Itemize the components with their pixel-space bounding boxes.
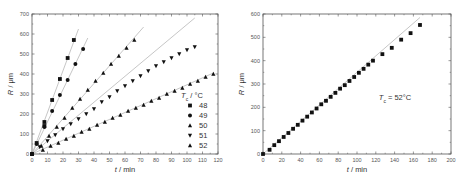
x-axis-title: t / min [347, 165, 367, 174]
fit-line-52 [32, 73, 213, 154]
legend: Tc / °C4849505152 [181, 91, 207, 150]
marker-triangle-down [169, 56, 173, 60]
marker-square [282, 135, 286, 139]
x-tick-label: 60 [316, 157, 322, 163]
marker-triangle-down [131, 79, 135, 83]
x-tick-label: 50 [106, 157, 112, 163]
y-tick-label: 600 [251, 11, 260, 17]
right-plot: 0204060801001201401601802000100200300400… [237, 11, 456, 174]
x-tick-label: 70 [137, 157, 143, 163]
marker-triangle-up [93, 79, 97, 83]
marker-square [310, 111, 314, 115]
legend-item-49: 49 [199, 111, 207, 120]
annotation-tc: Tc = 52°C [379, 93, 412, 104]
marker-triangle-down [177, 52, 181, 56]
y-tick-label: 100 [251, 128, 260, 134]
marker-square [43, 120, 47, 124]
marker-square [399, 38, 403, 42]
marker-square [188, 104, 192, 108]
marker-square [261, 152, 265, 156]
legend-item-48: 48 [199, 101, 207, 110]
marker-square [380, 52, 384, 56]
y-tick-label: 300 [251, 81, 260, 87]
legend-item-50: 50 [199, 121, 207, 130]
marker-triangle-up [188, 123, 192, 127]
marker-circle [50, 109, 54, 113]
x-tick-label: 140 [390, 157, 399, 163]
y-axis-title: R / μm [6, 73, 15, 95]
marker-triangle-down [84, 112, 88, 116]
x-tick-label: 0 [261, 157, 264, 163]
x-tick-label: 20 [279, 157, 285, 163]
marker-triangle-down [100, 100, 104, 104]
y-tick-label: 0 [257, 151, 260, 157]
y-axis-title: R / μm [237, 73, 246, 95]
figure: 0102030405060708090100110120010020030040… [0, 0, 458, 183]
marker-triangle-up [64, 137, 68, 141]
marker-square [324, 99, 328, 103]
chart-left-growth-rates: 0102030405060708090100110120010020030040… [0, 0, 458, 183]
marker-triangle-up [55, 125, 59, 129]
y-tick-label: 200 [20, 111, 29, 117]
marker-triangle-down [138, 74, 142, 78]
marker-square [329, 95, 333, 99]
marker-square [315, 107, 319, 111]
marker-triangle-up [49, 144, 53, 148]
marker-triangle-down [162, 60, 166, 64]
marker-square [348, 79, 352, 83]
y-tick-label: 700 [20, 11, 29, 17]
marker-circle [81, 47, 85, 51]
x-tick-label: 120 [213, 157, 222, 163]
left-plot: 0102030405060708090100110120010020030040… [6, 11, 223, 174]
marker-circle [58, 93, 62, 97]
x-tick-label: 100 [352, 157, 361, 163]
marker-square [357, 71, 361, 75]
marker-triangle-down [123, 84, 127, 88]
marker-triangle-up [117, 54, 121, 58]
marker-circle [42, 125, 46, 129]
x-tick-label: 80 [335, 157, 341, 163]
x-tick-label: 120 [371, 157, 380, 163]
marker-square [352, 75, 356, 79]
legend-item-52: 52 [199, 141, 207, 150]
marker-circle [66, 78, 70, 82]
marker-square [338, 87, 342, 91]
marker-triangle-down [115, 89, 119, 93]
x-tick-label: 20 [60, 157, 66, 163]
marker-square [371, 59, 375, 63]
marker-square [277, 139, 281, 143]
y-tick-label: 400 [20, 71, 29, 77]
marker-square [319, 102, 323, 106]
marker-square [268, 148, 272, 152]
y-tick-label: 0 [26, 151, 29, 157]
x-tick-label: 60 [122, 157, 128, 163]
marker-square [291, 127, 295, 131]
x-tick-label: 200 [446, 157, 455, 163]
marker-square [301, 119, 305, 123]
marker-square [343, 83, 347, 87]
x-tick-label: 100 [182, 157, 191, 163]
marker-triangle-up [118, 113, 122, 117]
y-tick-label: 200 [251, 104, 260, 110]
marker-triangle-down [107, 95, 111, 99]
marker-square [409, 31, 413, 35]
marker-square [72, 38, 76, 42]
marker-triangle-down [188, 134, 192, 138]
marker-triangle-down [154, 64, 158, 68]
marker-square [66, 56, 70, 60]
marker-triangle-down [76, 117, 80, 121]
x-tick-label: 80 [153, 157, 159, 163]
marker-triangle-up [62, 116, 66, 120]
marker-square [305, 115, 309, 119]
marker-triangle-up [80, 130, 84, 134]
marker-triangle-down [146, 69, 150, 73]
marker-triangle-up [149, 99, 153, 103]
x-tick-label: 40 [298, 157, 304, 163]
marker-square [272, 143, 276, 147]
marker-triangle-down [69, 122, 73, 126]
y-tick-label: 600 [20, 31, 29, 37]
marker-square [333, 91, 337, 95]
x-tick-label: 10 [44, 157, 50, 163]
x-tick-label: 40 [91, 157, 97, 163]
marker-triangle-up [95, 123, 99, 127]
